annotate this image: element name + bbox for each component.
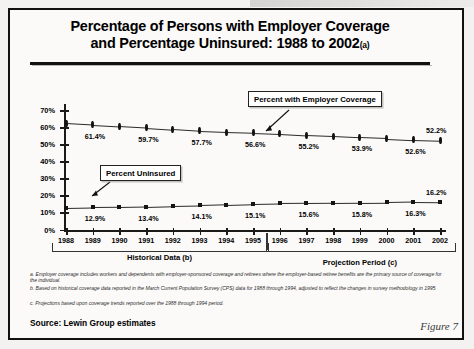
slide-page: Percentage of Persons with Employer Cove… [0, 0, 474, 349]
callout-employer-coverage: Percent with Employer Coverage [248, 91, 382, 107]
footnote-b-text: Based on historical coverage data report… [36, 285, 437, 291]
footnote-c: c. Projections based upon coverage trend… [30, 300, 442, 306]
footnote-a-marker: a. [30, 271, 34, 277]
figure-caption: Figure 7 [420, 320, 458, 332]
footnote-a-text: Employer coverage includes workers and d… [30, 271, 441, 283]
footnote-a: a. Employer coverage includes workers an… [30, 271, 442, 284]
footnote-c-text: Projections based upon coverage trends r… [35, 300, 223, 306]
footnote-b-marker: b. [30, 285, 34, 291]
footnote-c-marker: c. [30, 300, 34, 306]
callout-arrows [0, 0, 474, 349]
callout-uninsured: Percent Uninsured [100, 165, 181, 181]
footnote-b: b. Based on historical coverage data rep… [30, 285, 442, 291]
source-line: Source: Lewin Group estimates [30, 318, 156, 328]
